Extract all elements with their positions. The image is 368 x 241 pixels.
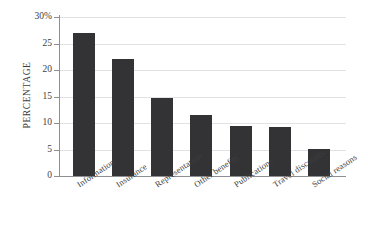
y-axis-tick-label: 0 [8,170,52,180]
y-axis-tick-label: 20 [8,64,52,74]
y-axis-tick-label: 30% [8,11,52,21]
bar [73,33,95,176]
bar [112,59,134,176]
y-axis-tick-label: 5 [8,144,52,154]
y-axis-tick [54,176,60,177]
plot-area [60,17,346,176]
y-axis-tick-label: 10 [8,117,52,127]
bar [190,115,212,176]
y-axis-tick-label: 15 [8,91,52,101]
y-axis-tick-label: 25 [8,38,52,48]
bar-chart: PERCENTAGE 051015202530% InformationInsu… [0,0,368,241]
bar [151,98,173,176]
